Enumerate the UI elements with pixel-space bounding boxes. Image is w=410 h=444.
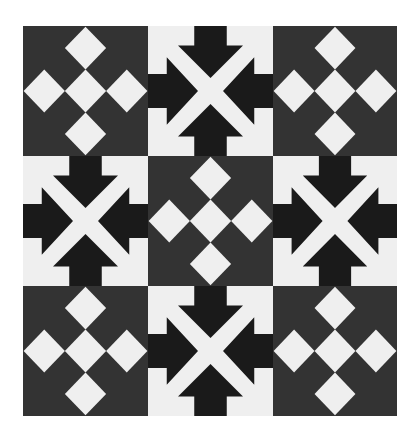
diamond-cross-icon	[23, 286, 148, 416]
diamond-cross-icon	[273, 26, 397, 156]
tile-r2-c1-inward-arrows	[23, 156, 148, 286]
diamond-cross-icon	[273, 286, 397, 416]
tile-grid	[23, 26, 397, 416]
inward-arrows-icon	[148, 286, 273, 416]
pattern-canvas: Geometric tile pattern	[0, 0, 410, 444]
tile-r2-c2-diamond-cross	[148, 156, 273, 286]
tile-r1-c2-inward-arrows	[148, 26, 273, 156]
tile-r1-c3-diamond-cross	[273, 26, 397, 156]
inward-arrows-icon	[23, 156, 148, 286]
inward-arrows-icon	[273, 156, 397, 286]
diamond-cross-icon	[23, 26, 148, 156]
tile-r3-c2-inward-arrows	[148, 286, 273, 416]
tile-r1-c1-diamond-cross	[23, 26, 148, 156]
diamond-cross-icon	[148, 156, 273, 286]
tile-r3-c1-diamond-cross	[23, 286, 148, 416]
tile-r3-c3-diamond-cross	[273, 286, 397, 416]
tile-r2-c3-inward-arrows	[273, 156, 397, 286]
inward-arrows-icon	[148, 26, 273, 156]
